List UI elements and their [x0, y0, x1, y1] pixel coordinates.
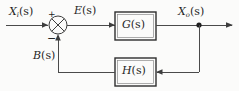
input-signal-label: Xi(s): [9, 6, 33, 17]
output-signal-label: Xo(s): [178, 6, 204, 17]
feedback-block-arrowhead-icon: [156, 69, 163, 75]
output-arrowhead-icon: [226, 22, 233, 28]
forward-block-label: G(s): [122, 19, 145, 30]
summing-junction-plus-sign: +: [48, 10, 56, 19]
feedback-signal-label: B(s): [33, 50, 55, 61]
feedback-block-label: H(s): [122, 65, 146, 76]
error-signal-label: E(s): [74, 5, 96, 16]
block-diagram: Xi(s) E(s) Xo(s) B(s) G(s) H(s) + −: [0, 0, 239, 91]
input-arrowhead-icon: [42, 22, 48, 28]
error-arrowhead-icon: [109, 22, 115, 28]
summing-junction-minus-sign: −: [47, 33, 56, 44]
